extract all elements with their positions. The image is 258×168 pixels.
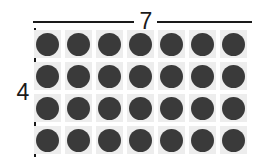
dot-icon	[191, 65, 214, 88]
dimension-line-left-segment	[33, 21, 134, 23]
array-cell	[156, 28, 187, 60]
dot-icon	[98, 33, 121, 56]
array-cell	[32, 124, 63, 156]
dot-icon	[129, 65, 152, 88]
array-cell	[32, 92, 63, 124]
cell-background	[220, 94, 247, 122]
dot-icon	[222, 97, 245, 120]
dot-icon	[67, 129, 90, 152]
cell-background	[65, 126, 92, 154]
array-cell	[218, 28, 249, 60]
cell-background	[189, 30, 216, 58]
cell-background	[158, 62, 185, 90]
cell-background	[158, 30, 185, 58]
cell-background	[34, 30, 61, 58]
cell-background	[127, 126, 154, 154]
array-cell	[125, 60, 156, 92]
cell-background	[158, 94, 185, 122]
cell-background	[127, 94, 154, 122]
dot-icon	[67, 97, 90, 120]
dot-icon	[222, 65, 245, 88]
cell-background	[96, 94, 123, 122]
dot-icon	[160, 65, 183, 88]
array-cell	[156, 92, 187, 124]
dot-icon	[67, 33, 90, 56]
dot-icon	[222, 129, 245, 152]
dot-icon	[222, 33, 245, 56]
array-cell	[125, 28, 156, 60]
dot-icon	[129, 33, 152, 56]
cell-background	[127, 30, 154, 58]
array-cell	[125, 124, 156, 156]
array-cell	[63, 28, 94, 60]
array-cell	[94, 124, 125, 156]
cell-background	[189, 62, 216, 90]
array-cell	[156, 60, 187, 92]
cell-background	[34, 94, 61, 122]
cell-background	[65, 62, 92, 90]
dot-icon	[160, 33, 183, 56]
array-cell	[94, 92, 125, 124]
cell-background	[220, 62, 247, 90]
cell-background	[34, 62, 61, 90]
array-cell	[156, 124, 187, 156]
dot-icon	[98, 129, 121, 152]
array-cell	[94, 28, 125, 60]
cell-background	[220, 126, 247, 154]
array-cell	[218, 92, 249, 124]
dot-array-grid	[32, 28, 249, 156]
cell-background	[96, 30, 123, 58]
dot-icon	[98, 97, 121, 120]
array-cell	[63, 124, 94, 156]
dot-icon	[191, 97, 214, 120]
array-cell	[63, 60, 94, 92]
dot-icon	[129, 129, 152, 152]
cell-background	[220, 30, 247, 58]
cell-background	[189, 94, 216, 122]
cell-background	[158, 126, 185, 154]
dot-icon	[160, 129, 183, 152]
array-cell	[32, 28, 63, 60]
array-cell	[218, 124, 249, 156]
dot-icon	[191, 129, 214, 152]
array-cell	[187, 92, 218, 124]
cell-background	[96, 62, 123, 90]
array-cell	[187, 60, 218, 92]
dot-icon	[160, 97, 183, 120]
array-cell	[63, 92, 94, 124]
dot-array-diagram: 7 4	[0, 0, 258, 168]
cell-background	[65, 94, 92, 122]
dot-icon	[67, 65, 90, 88]
dimension-line-right-segment	[157, 21, 252, 23]
array-cell	[125, 92, 156, 124]
array-cell	[94, 60, 125, 92]
dot-icon	[36, 129, 59, 152]
array-cell	[32, 60, 63, 92]
cell-background	[189, 126, 216, 154]
dot-icon	[36, 33, 59, 56]
dot-icon	[191, 33, 214, 56]
array-cell	[187, 124, 218, 156]
dot-icon	[129, 97, 152, 120]
rows-dimension-label: 4	[12, 78, 34, 106]
cell-background	[96, 126, 123, 154]
array-cell	[187, 28, 218, 60]
cell-background	[65, 30, 92, 58]
dot-icon	[98, 65, 121, 88]
cell-background	[34, 126, 61, 154]
cell-background	[127, 62, 154, 90]
dot-icon	[36, 97, 59, 120]
dot-icon	[36, 65, 59, 88]
array-cell	[218, 60, 249, 92]
